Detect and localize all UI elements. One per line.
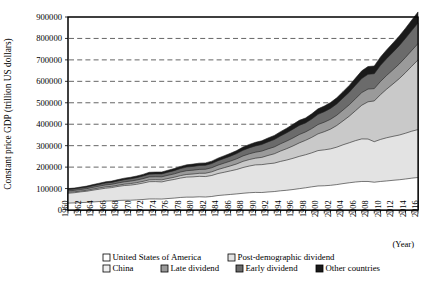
x-tick-label: 1996	[286, 200, 295, 217]
y-axis-ticks: 0100000200000300000400000500000600000700…	[36, 12, 68, 215]
y-tick-label: 100000	[36, 184, 62, 194]
legend-swatch	[236, 265, 243, 272]
x-tick-label: 1994	[274, 199, 283, 217]
x-tick-label: 2012	[386, 200, 395, 217]
x-tick-label: 2002	[324, 200, 333, 217]
legend-swatch	[161, 265, 168, 272]
y-axis-title-text: Constant price GDP (trillion US dollars)	[3, 38, 14, 189]
x-axis-title-text: (Year)	[392, 239, 414, 249]
x-tick-label: 1972	[136, 200, 145, 217]
y-tick-label: 600000	[36, 76, 62, 86]
x-tick-label: 2004	[336, 199, 345, 217]
chart-legend: United States of AmericaPost-demographic…	[103, 252, 381, 273]
x-tick-label: 1960	[61, 200, 70, 217]
x-tick-label: 1988	[236, 200, 245, 217]
x-tick-label: 2016	[411, 200, 420, 217]
legend-label: Post-demographic dividend	[238, 252, 336, 262]
x-tick-label: 1978	[174, 200, 183, 217]
legend-swatch	[103, 254, 110, 261]
legend-label: United States of America	[113, 252, 202, 262]
legend-label: Other countries	[326, 263, 381, 273]
x-tick-label: 1962	[74, 200, 83, 217]
x-tick-label: 1982	[199, 200, 208, 217]
legend-swatch	[103, 265, 110, 272]
y-tick-label: 700000	[36, 55, 62, 65]
y-tick-label: 500000	[36, 98, 62, 108]
x-tick-label: 2000	[311, 200, 320, 217]
legend-swatch	[316, 265, 323, 272]
x-tick-label: 1968	[111, 200, 120, 217]
x-axis-tick-labels: 1960196219641966196819701972197419761978…	[61, 199, 420, 217]
legend-label: China	[113, 263, 134, 273]
x-tick-label: 1964	[86, 199, 95, 217]
y-axis-title: Constant price GDP (trillion US dollars)	[3, 38, 14, 189]
x-tick-label: 1976	[161, 200, 170, 217]
x-tick-label: 1986	[224, 200, 233, 217]
x-tick-label: 1998	[299, 200, 308, 217]
x-tick-label: 2006	[349, 200, 358, 217]
x-tick-label: 1966	[99, 200, 108, 217]
x-tick-label: 1970	[124, 200, 133, 217]
y-tick-label: 300000	[36, 141, 62, 151]
y-tick-label: 400000	[36, 119, 62, 129]
x-tick-label: 2014	[399, 199, 408, 217]
legend-swatch	[228, 254, 235, 261]
x-tick-label: 1990	[249, 200, 258, 217]
x-tick-label: 1984	[211, 199, 220, 217]
x-tick-label: 1974	[149, 199, 158, 217]
y-tick-label: 800000	[36, 33, 62, 43]
chart-container: Constant price GDP (trillion US dollars)…	[0, 0, 445, 292]
stacked-area-chart: Constant price GDP (trillion US dollars)…	[0, 0, 445, 292]
x-tick-label: 2010	[374, 200, 383, 217]
legend-label: Early dividend	[246, 263, 299, 273]
x-tick-label: 1980	[186, 200, 195, 217]
legend-label: Late dividend	[171, 263, 220, 273]
y-tick-label: 200000	[36, 162, 62, 172]
x-tick-label: 1992	[261, 200, 270, 217]
x-tick-label: 2008	[361, 200, 370, 217]
y-tick-label: 900000	[36, 12, 62, 22]
